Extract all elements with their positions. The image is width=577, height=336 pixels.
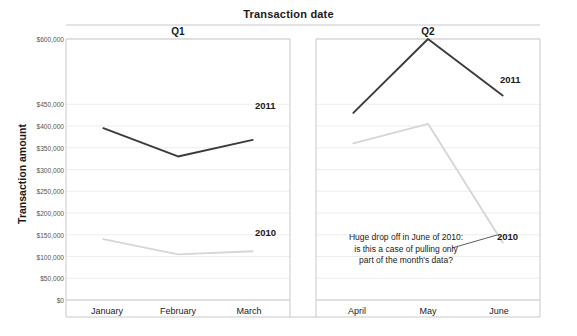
series-label-2010-q2: 2010 (497, 231, 518, 242)
series-label-2011-q2: 2011 (500, 74, 521, 85)
x-tick-may: May (419, 306, 436, 316)
x-tick-june: June (489, 306, 509, 316)
series-line-2010-Q1 (103, 239, 252, 254)
series-label-2010-q1: 2010 (255, 227, 276, 238)
x-tick-april: April (348, 306, 366, 316)
x-tick-february: February (160, 306, 196, 316)
x-tick-march: March (236, 306, 261, 316)
series-line-2010-Q2 (353, 124, 502, 243)
plot-area (0, 0, 577, 336)
series-line-2011-Q1 (103, 128, 252, 156)
chart-container: Transaction date Transaction amount Q1 Q… (0, 0, 577, 336)
series-label-2011-q1: 2011 (255, 100, 276, 111)
series-line-2011-Q2 (353, 39, 502, 113)
x-tick-january: January (91, 306, 123, 316)
annotation-june-2010-dropoff: Huge drop off in June of 2010: is this a… (316, 232, 496, 267)
